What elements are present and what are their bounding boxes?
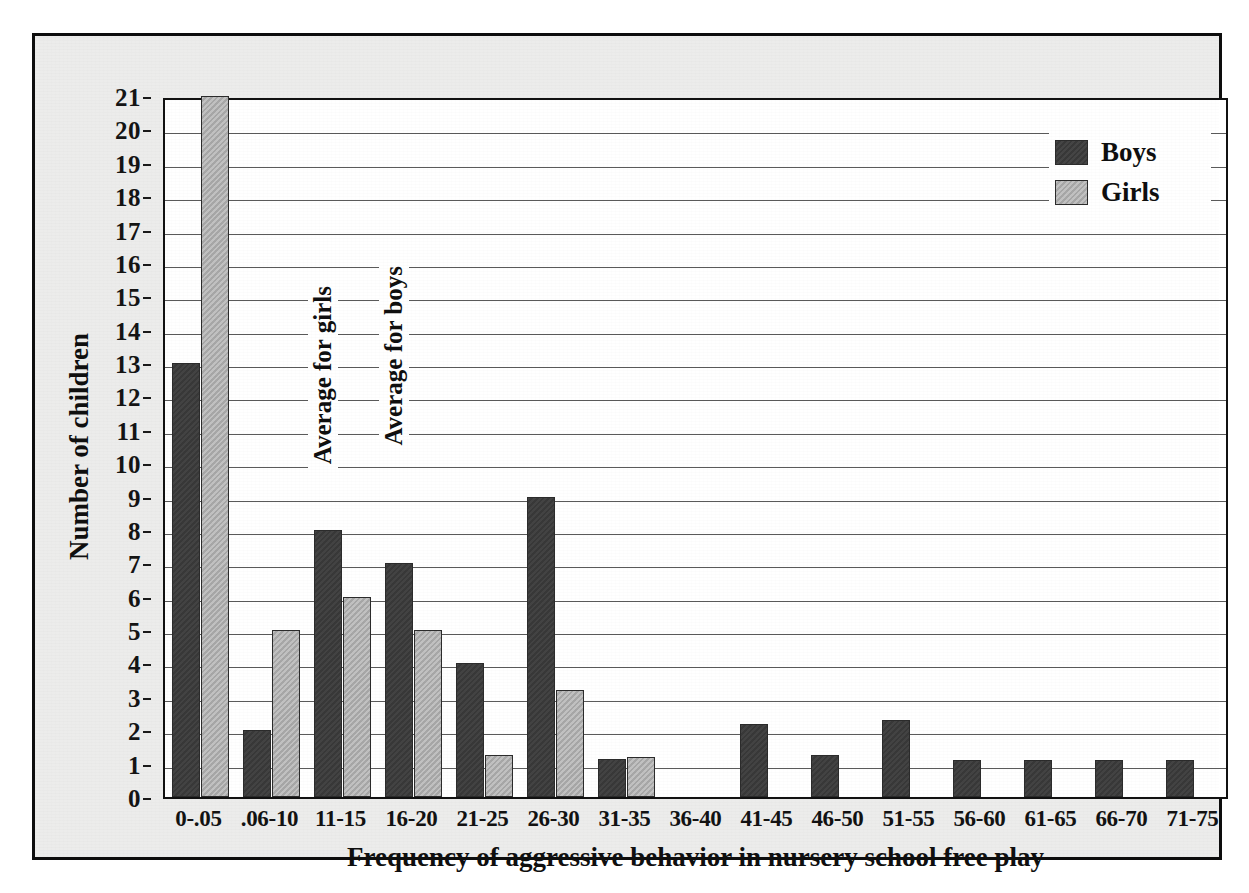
x-axis-title: Frequency of aggressive behavior in nurs… (163, 842, 1228, 873)
bar-boys-46-50 (811, 755, 839, 797)
y-tick-mark (143, 231, 151, 233)
y-tick-mark (143, 397, 151, 399)
bar-boys-.06-10 (243, 730, 271, 797)
bar-boys-21-25 (456, 663, 484, 797)
bar-boys-16-20 (385, 563, 413, 797)
y-tick-label: 8 (128, 518, 141, 546)
bar-boys-51-55 (882, 720, 910, 797)
y-tick-mark (143, 664, 151, 666)
y-tick-label: 21 (115, 84, 141, 112)
annotation-average-for-boys: Average for boys (379, 260, 409, 450)
y-tick-label: 20 (115, 117, 141, 145)
bar-boys-71-75 (1166, 760, 1194, 797)
y-tick-mark (143, 197, 151, 199)
y-tick-mark (143, 130, 151, 132)
y-tick-label: 3 (128, 685, 141, 713)
y-tick-mark (143, 498, 151, 500)
x-tick-label: 61-65 (1024, 806, 1076, 832)
x-tick-label: 21-25 (456, 806, 508, 832)
y-tick-label: 16 (115, 251, 141, 279)
y-tick-label: 1 (128, 752, 141, 780)
y-tick-mark (143, 264, 151, 266)
y-tick-label: 12 (115, 384, 141, 412)
y-tick-mark (143, 598, 151, 600)
y-tick-label: 7 (128, 551, 141, 579)
x-tick-label: 41-45 (740, 806, 792, 832)
y-tick-mark (143, 531, 151, 533)
bar-boys-0-.05 (172, 363, 200, 797)
bar-girls-0-.05 (201, 96, 229, 797)
bar-boys-66-70 (1095, 760, 1123, 797)
legend-item-boys: Boys (1055, 132, 1205, 172)
bar-girls-26-30 (556, 690, 584, 797)
bar-boys-56-60 (953, 760, 981, 797)
y-tick-label: 9 (128, 485, 141, 513)
annotation-average-for-girls: Average for girls (308, 280, 338, 468)
bar-boys-41-45 (740, 724, 768, 797)
y-tick-label: 14 (115, 318, 141, 346)
bar-girls-.06-10 (272, 630, 300, 797)
x-tick-label: 66-70 (1095, 806, 1147, 832)
bar-girls-11-15 (343, 597, 371, 797)
y-tick-mark (143, 164, 151, 166)
bar-girls-31-35 (627, 757, 655, 797)
x-tick-label: 0-.05 (175, 806, 221, 832)
y-tick-label: 13 (115, 351, 141, 379)
y-tick-mark (143, 631, 151, 633)
bar-girls-16-20 (414, 630, 442, 797)
x-axis-ticks: 0-.05.06-1011-1516-2021-2526-3031-3536-4… (163, 806, 1228, 842)
y-tick-mark (143, 798, 151, 800)
y-tick-mark (143, 297, 151, 299)
y-tick-mark (143, 97, 151, 99)
legend-label-boys: Boys (1101, 139, 1157, 166)
legend-swatch-boys (1055, 140, 1088, 165)
y-tick-mark (143, 698, 151, 700)
bar-boys-61-65 (1024, 760, 1052, 797)
x-tick-label: 36-40 (669, 806, 721, 832)
y-tick-mark (143, 431, 151, 433)
y-tick-mark (143, 731, 151, 733)
x-tick-label: 31-35 (598, 806, 650, 832)
y-tick-label: 11 (116, 418, 141, 446)
x-tick-label: 51-55 (882, 806, 934, 832)
y-tick-label: 15 (115, 284, 141, 312)
y-tick-mark (143, 331, 151, 333)
legend-label-girls: Girls (1101, 179, 1160, 206)
y-axis-ticks: 0123456789101112131415161718192021 (35, 98, 159, 799)
legend-swatch-girls (1055, 180, 1088, 205)
y-tick-label: 2 (128, 718, 141, 746)
x-tick-label: .06-10 (241, 806, 299, 832)
y-tick-label: 4 (128, 651, 141, 679)
y-tick-label: 10 (115, 451, 141, 479)
x-tick-label: 11-15 (315, 806, 366, 832)
x-tick-label: 26-30 (527, 806, 579, 832)
x-tick-label: 56-60 (953, 806, 1005, 832)
y-tick-label: 19 (115, 151, 141, 179)
y-tick-label: 18 (115, 184, 141, 212)
y-tick-label: 5 (128, 618, 141, 646)
bar-boys-31-35 (598, 759, 626, 797)
chart-frame: Number of children 012345678910111213141… (32, 33, 1222, 860)
y-tick-mark (143, 765, 151, 767)
bar-girls-21-25 (485, 755, 513, 797)
bar-boys-26-30 (527, 497, 555, 797)
chart-page: Number of children 012345678910111213141… (0, 0, 1249, 893)
x-tick-label: 71-75 (1166, 806, 1218, 832)
y-tick-label: 17 (115, 218, 141, 246)
y-tick-mark (143, 464, 151, 466)
chart-legend: BoysGirls (1055, 132, 1205, 212)
y-tick-mark (143, 564, 151, 566)
y-tick-mark (143, 364, 151, 366)
legend-item-girls: Girls (1055, 172, 1205, 212)
y-tick-label: 0 (128, 785, 141, 813)
y-tick-label: 6 (128, 585, 141, 613)
x-tick-label: 46-50 (811, 806, 863, 832)
bar-boys-11-15 (314, 530, 342, 797)
x-tick-label: 16-20 (385, 806, 437, 832)
